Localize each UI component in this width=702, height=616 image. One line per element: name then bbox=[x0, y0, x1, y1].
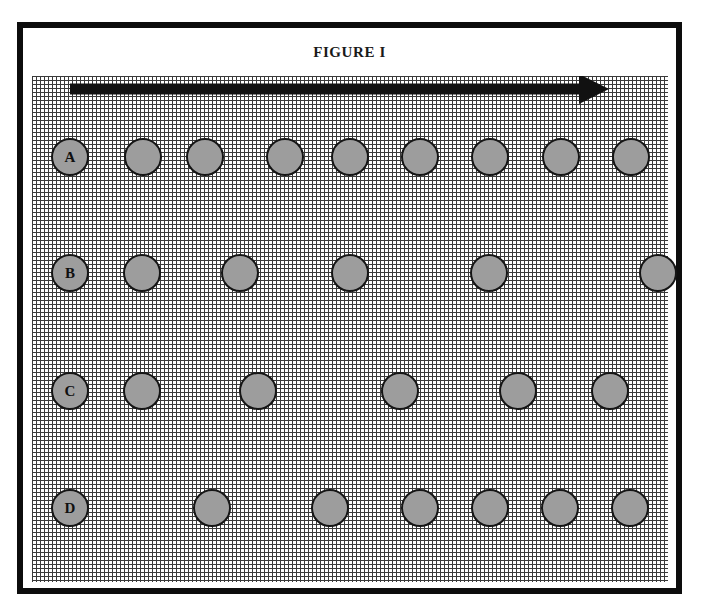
marker-circle-a-1: A bbox=[51, 138, 89, 176]
marker-circle-a-9 bbox=[612, 138, 650, 176]
marker-circle-c-5 bbox=[499, 372, 537, 410]
marker-circle-c-6 bbox=[591, 372, 629, 410]
marker-circle-a-8 bbox=[542, 138, 580, 176]
marker-circle-c-3 bbox=[239, 372, 277, 410]
marker-circle-b-2 bbox=[123, 254, 161, 292]
marker-circle-a-5 bbox=[331, 138, 369, 176]
marker-circle-a-6 bbox=[401, 138, 439, 176]
figure-title: FIGURE I bbox=[23, 44, 676, 61]
marker-circle-b-5 bbox=[470, 254, 508, 292]
marker-circle-b-6 bbox=[639, 254, 677, 292]
marker-circle-d-7 bbox=[611, 489, 649, 527]
markers-layer: ABCD bbox=[32, 76, 668, 582]
figure-container: FIGURE I ABCD bbox=[0, 0, 702, 616]
marker-circle-d-5 bbox=[471, 489, 509, 527]
marker-circle-c-2 bbox=[123, 372, 161, 410]
marker-circle-c-1: C bbox=[51, 372, 89, 410]
marker-circle-d-6 bbox=[541, 489, 579, 527]
marker-circle-a-7 bbox=[471, 138, 509, 176]
marker-circle-a-3 bbox=[186, 138, 224, 176]
marker-circle-c-4 bbox=[381, 372, 419, 410]
marker-circle-b-1: B bbox=[51, 254, 89, 292]
marker-circle-d-4 bbox=[401, 489, 439, 527]
marker-circle-b-3 bbox=[221, 254, 259, 292]
marker-circle-d-1: D bbox=[51, 489, 89, 527]
marker-circle-d-3 bbox=[311, 489, 349, 527]
row-label-b: B bbox=[53, 256, 87, 290]
figure-frame: FIGURE I ABCD bbox=[17, 22, 682, 594]
row-label-c: C bbox=[53, 374, 87, 408]
marker-circle-a-2 bbox=[124, 138, 162, 176]
row-label-d: D bbox=[53, 491, 87, 525]
row-label-a: A bbox=[53, 140, 87, 174]
grid-plot-area: ABCD bbox=[32, 76, 668, 582]
marker-circle-b-4 bbox=[331, 254, 369, 292]
marker-circle-a-4 bbox=[266, 138, 304, 176]
marker-circle-d-2 bbox=[193, 489, 231, 527]
